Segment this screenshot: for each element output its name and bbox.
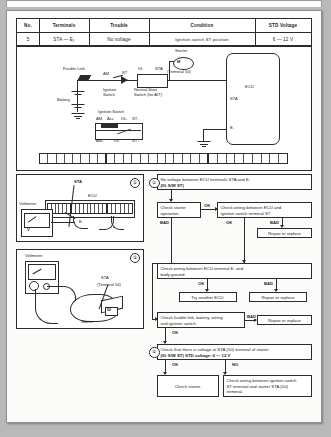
flow-flag-no-1: NO	[231, 362, 239, 367]
ign-row-top-acc: Acc	[107, 117, 114, 122]
col-header-std-voltage: STD Voltage	[255, 23, 311, 28]
panel-1-volt-unit: V	[27, 228, 30, 233]
ecu-terminal-e1-label: E₁	[230, 126, 234, 131]
neutral-start-switch-box	[137, 74, 168, 88]
neutral-start-switch-label: Neutral Start Switch (for A/T)	[134, 88, 162, 97]
manual-page: No. Terminals Trouble Condition STD Volt…	[6, 10, 322, 423]
flow-marker-2: ②	[149, 347, 160, 358]
flow-arrow-4	[244, 218, 245, 263]
flow-arrow-8	[152, 263, 153, 319]
ign-row-top-ig2: IG₂	[121, 117, 127, 122]
panel-2-sta-label: STA	[101, 276, 109, 281]
wiring-diagram: ECU STA E₁ M Starter (Terminal 50) Fusib…	[16, 46, 312, 171]
flow-marker-1: ①	[149, 178, 160, 189]
panel-2-voltmeter-face	[28, 264, 56, 280]
ignition-switch-table-title: Ignition Switch	[98, 110, 124, 115]
panel-2-lead-black	[35, 289, 58, 324]
panel-1-harness-c	[111, 216, 124, 230]
am-terminal-label: AM	[103, 72, 109, 77]
flow-flag-bad-2: BAD	[269, 220, 280, 225]
ign-row-top-st1: ST₁	[132, 117, 139, 122]
inspection-panel-1: ① STA ECU E₁ Voltmeter V	[16, 174, 144, 242]
ign-table-rule	[95, 130, 141, 131]
ign-row-top-am: AM	[96, 117, 102, 122]
flow-arrow-3	[171, 218, 172, 263]
flow-flag-bad-4: BAD	[246, 314, 257, 319]
box-repair-or-replace-1: Repair or replace	[257, 228, 312, 238]
cell-terminals: STA — E₁	[39, 37, 89, 42]
battery-symbol-mid	[71, 104, 84, 110]
flow-flag-bad-1: BAD	[159, 220, 170, 225]
panel-1-voltmeter-label: Voltmeter	[19, 202, 36, 207]
panel-1-conn-b	[71, 203, 107, 214]
box-check-fusible-link: Check fusible link, battery, wiring and …	[157, 312, 245, 328]
box-repair-or-replace-3: Repair or replace	[257, 315, 312, 325]
wire-starter-branch	[169, 61, 170, 80]
spec-table: No. Terminals Trouble Condition STD Volt…	[16, 18, 312, 46]
box-repair-or-replace-2: Repair or replace	[249, 292, 307, 302]
sta-terminal-label: STA	[155, 67, 163, 72]
panel-1-harness-a	[73, 216, 88, 229]
e1-ground-symbol	[197, 141, 210, 148]
panel-1-conn-c	[107, 203, 133, 214]
ign-contact-bar	[101, 124, 118, 128]
ign-row-bottom-ig1: IG₁	[114, 139, 120, 144]
ign-row-bottom-am1: AM₁	[96, 139, 104, 144]
flow-flag-ok-5: OK	[171, 362, 179, 367]
flow-flag-ok-1: OK	[203, 203, 211, 208]
table-row: 5	[17, 32, 39, 46]
starter-label: Starter	[175, 49, 187, 54]
panel-2-marker: ②	[130, 253, 140, 263]
ecu-label: ECU	[245, 85, 254, 90]
terminal-50-label: (Terminal 50)	[167, 70, 191, 75]
panel-2-starter-label: Starter	[81, 320, 93, 325]
wire-e1-horizontal	[203, 129, 227, 130]
panel-1-ecu-label: ECU	[88, 194, 97, 199]
ecu-connector-center	[106, 153, 208, 164]
troubleshooting-flowchart: No voltage between ECU terminals STA and…	[151, 174, 312, 417]
panel-2-terminal-50-label: (Terminal 50)	[97, 283, 121, 288]
flow-flag-ok-3: OK	[197, 281, 205, 286]
cell-condition: Ignition switch ST position	[149, 37, 255, 42]
starter-motor-glyph: M	[177, 60, 180, 65]
wire-e1-vertical	[203, 129, 204, 141]
flow-flag-ok-2: OK	[225, 220, 233, 225]
flow-flag-ok-4: OK	[171, 330, 179, 335]
page-top-strip	[6, 0, 322, 7]
box-check-voltage-sta-line2: (IG S/W ST) STD voltage: 6 — 12 V	[161, 353, 309, 359]
panel-1-marker: ①	[130, 178, 140, 188]
flow-title-line2: (IG S/W ST)	[161, 183, 309, 189]
ign-row-bottom-st2: ST₂	[132, 139, 139, 144]
box-check-starter: Check starter.	[157, 375, 219, 397]
ig-terminal-label: IG	[138, 67, 142, 72]
box-check-starter-operation: Check starter operation.	[157, 202, 201, 218]
flow-flag-bad-3: BAD	[263, 281, 274, 286]
panel-1-sta-label: STA	[74, 180, 82, 185]
col-header-no: No.	[17, 23, 39, 28]
ecu-terminal-sta-label: STA	[230, 97, 238, 102]
battery-ground	[71, 113, 84, 120]
box-check-voltage-sta: Check that there is voltage at STA (50) …	[157, 344, 312, 360]
panel-2-terminal-glyph: 50	[107, 308, 111, 312]
flow-title-box: No voltage between ECU terminals STA and…	[157, 174, 312, 190]
cell-no: 5	[17, 37, 39, 42]
col-header-terminals: Terminals	[39, 23, 89, 28]
ecu-connector-right	[208, 153, 288, 164]
panel-1-lead-wire	[51, 222, 75, 223]
battery-symbol-top	[71, 91, 84, 97]
box-check-wiring-e1-ground: Check wiring between ECU terminal E₁ and…	[157, 263, 312, 279]
panel-2-voltmeter-label: Voltmeter	[25, 254, 42, 259]
box-check-wiring-ign-starter: Check wiring between ignition switch ST …	[223, 375, 312, 397]
box-check-wiring-ecu-ign: Check wiring between ECU and ignition sw…	[217, 202, 312, 218]
ecu-connector-left	[39, 153, 106, 164]
ignition-switch-arrow	[121, 76, 128, 84]
cell-std-voltage: 6 — 12 V	[255, 37, 311, 42]
cell-trouble: No voltage	[89, 37, 149, 42]
ignition-switch-label: Ignition Switch	[103, 88, 116, 97]
battery-label: Battery	[57, 98, 70, 103]
inspection-panel-2: ② Voltmeter 50 STA (Terminal 50) Starter	[16, 249, 144, 329]
col-header-trouble: Trouble	[89, 23, 149, 28]
col-header-condition: Condition	[149, 23, 255, 28]
box-try-another-ecu: Try another ECU.	[179, 292, 237, 302]
fusible-link-label: Fusible Link	[63, 67, 85, 72]
